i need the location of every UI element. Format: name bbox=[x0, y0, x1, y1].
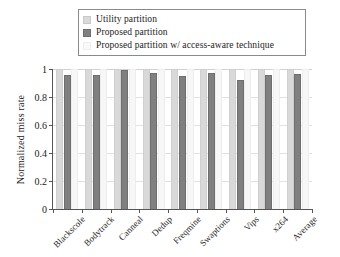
x-axis-tick bbox=[283, 209, 284, 213]
x-axis-tick-label: Canneal bbox=[117, 214, 145, 242]
bar-group bbox=[226, 69, 255, 209]
bar-group bbox=[168, 69, 197, 209]
bar bbox=[64, 75, 71, 209]
x-axis-tick-label: Vips bbox=[242, 214, 261, 233]
y-axis-title-text: Normalized miss rate bbox=[16, 95, 27, 185]
x-axis-tick-label: x264 bbox=[270, 214, 290, 234]
legend-swatch-utility-partition bbox=[83, 16, 91, 24]
y-axis-title: Normalized miss rate bbox=[14, 69, 28, 210]
bar-group bbox=[139, 69, 168, 209]
x-axis-tick-label: Bodytrack bbox=[82, 214, 116, 248]
bar bbox=[93, 75, 100, 209]
y-axis-tick-label: 0.8 bbox=[35, 92, 48, 103]
legend-label-proposed-partition: Proposed partition bbox=[96, 26, 168, 39]
bar bbox=[273, 69, 280, 209]
bar-group bbox=[197, 69, 226, 209]
bar bbox=[294, 74, 301, 209]
x-axis-tick bbox=[139, 209, 140, 213]
bar-group bbox=[283, 69, 312, 209]
bar bbox=[244, 69, 251, 209]
bar bbox=[158, 69, 165, 209]
bar bbox=[121, 70, 128, 209]
bar bbox=[100, 69, 107, 209]
bar bbox=[215, 69, 222, 209]
bar bbox=[85, 69, 92, 209]
bar bbox=[179, 76, 186, 209]
bar bbox=[71, 69, 78, 209]
y-axis-tick-label: 0.4 bbox=[35, 148, 48, 159]
y-axis-tick-label: 0 bbox=[42, 204, 47, 215]
x-axis-tick bbox=[312, 209, 313, 213]
x-axis-labels: BlackscoleBodytrackCannealDedupFreqmineS… bbox=[52, 214, 312, 257]
bar bbox=[129, 69, 136, 209]
bar bbox=[56, 69, 63, 209]
legend-entry-proposed-partition-access-aware: Proposed partition w/ access-aware techn… bbox=[82, 39, 301, 52]
x-axis-tick-label: Blackscole bbox=[52, 214, 88, 250]
bar-group bbox=[111, 69, 140, 209]
bar-group bbox=[82, 69, 111, 209]
x-axis-ticks bbox=[53, 209, 312, 213]
x-axis-tick bbox=[197, 209, 198, 213]
x-axis-tick bbox=[254, 209, 255, 213]
bar bbox=[187, 69, 194, 209]
bar-chart-figure: Utility partition Proposed partition Pro… bbox=[0, 0, 340, 257]
bar bbox=[258, 69, 265, 209]
x-axis-tick-label: Average bbox=[290, 214, 319, 243]
legend-swatch-proposed-partition-access-aware bbox=[83, 42, 91, 50]
x-axis-tick bbox=[82, 209, 83, 213]
x-axis-tick bbox=[111, 209, 112, 213]
bar bbox=[171, 69, 178, 209]
bar bbox=[237, 80, 244, 210]
legend-entry-utility-partition: Utility partition bbox=[82, 13, 301, 26]
bar-groups bbox=[53, 69, 312, 209]
x-axis-tick bbox=[226, 209, 227, 213]
bar bbox=[229, 69, 236, 209]
bar bbox=[114, 69, 121, 209]
bar bbox=[287, 69, 294, 209]
legend-swatch-proposed-partition bbox=[83, 29, 91, 37]
bar bbox=[150, 73, 157, 210]
bar-group bbox=[53, 69, 82, 209]
chart-legend: Utility partition Proposed partition Pro… bbox=[78, 9, 306, 56]
y-axis-tick-label: 0.2 bbox=[35, 176, 48, 187]
y-axis-tick-label: 0.6 bbox=[35, 120, 48, 131]
plot-area: 00.20.40.60.81 bbox=[52, 69, 312, 210]
legend-label-utility-partition: Utility partition bbox=[96, 13, 157, 26]
x-axis-tick bbox=[168, 209, 169, 213]
x-axis-tick bbox=[53, 209, 54, 213]
bar bbox=[265, 75, 272, 209]
legend-label-proposed-partition-access-aware: Proposed partition w/ access-aware techn… bbox=[96, 39, 274, 52]
bar bbox=[302, 69, 309, 209]
bar bbox=[143, 69, 150, 209]
y-axis-tick-label: 1 bbox=[42, 64, 47, 75]
legend-entry-proposed-partition: Proposed partition bbox=[82, 26, 301, 39]
bar-group bbox=[254, 69, 283, 209]
bar bbox=[208, 73, 215, 210]
x-axis-tick-label: Swaptions bbox=[198, 214, 232, 248]
bar bbox=[200, 69, 207, 209]
x-axis-tick-label: Dedup bbox=[150, 214, 174, 238]
